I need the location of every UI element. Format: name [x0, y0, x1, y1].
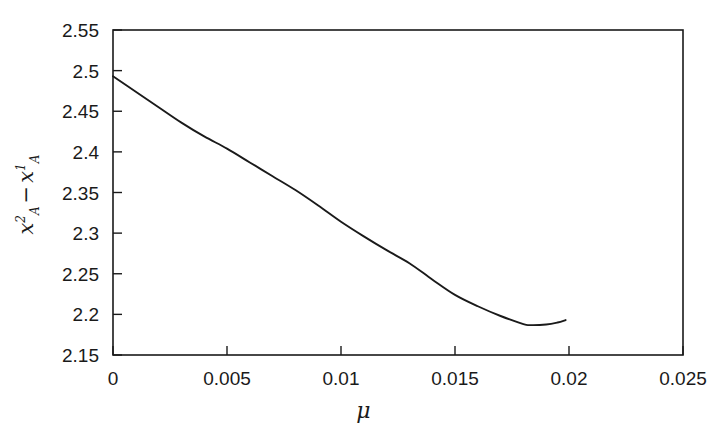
x-axis-tick-labels: 00.0050.010.0150.020.025: [108, 368, 707, 389]
y-tick-label: 2.4: [73, 142, 100, 163]
y-tick-label: 2.55: [62, 20, 99, 41]
x-axis-ticks: [113, 346, 683, 355]
y-axis-tick-labels: 2.152.22.252.32.352.42.452.52.55: [62, 20, 99, 366]
x-tick-label: 0: [108, 368, 119, 389]
y-tick-label: 2.2: [73, 304, 99, 325]
line-chart-plot: 2.152.22.252.32.352.42.452.52.55 00.0050…: [0, 0, 727, 441]
data-series-curve: [113, 76, 566, 325]
y-axis-title-text: x2A−x1A: [15, 155, 40, 235]
y-tick-label: 2.35: [62, 183, 99, 204]
x-axis-title: μ: [0, 398, 727, 423]
y-axis-title: x2A−x1A: [8, 130, 48, 260]
x-tick-label: 0.005: [203, 368, 251, 389]
x-axis-title-text: μ: [356, 398, 370, 423]
x-tick-label: 0.02: [551, 368, 588, 389]
chart-figure: 2.152.22.252.32.352.42.452.52.55 00.0050…: [0, 0, 727, 441]
y-tick-label: 2.15: [62, 345, 99, 366]
plot-frame: [113, 30, 683, 355]
x-tick-label: 0.015: [431, 368, 479, 389]
y-tick-label: 2.25: [62, 264, 99, 285]
x-tick-label: 0.01: [323, 368, 360, 389]
y-tick-label: 2.45: [62, 101, 99, 122]
y-tick-label: 2.5: [73, 61, 99, 82]
x-tick-label: 0.025: [659, 368, 707, 389]
y-tick-label: 2.3: [73, 223, 99, 244]
series-line: [113, 76, 566, 325]
